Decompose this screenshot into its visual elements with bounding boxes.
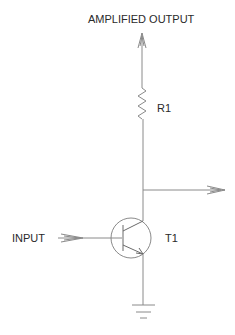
amplified-output-label: AMPLIFIED OUTPUT — [88, 13, 195, 25]
resistor-r1 — [138, 88, 146, 119]
transistor-t1-label: T1 — [165, 232, 178, 244]
input-label: INPUT — [12, 232, 45, 244]
circuit-diagram: AMPLIFIED OUTPUT R1 INPUT T1 — [0, 0, 235, 335]
output-arrow-up-icon — [138, 33, 146, 88]
ground-icon — [132, 305, 155, 318]
input-arrow-icon — [58, 234, 122, 242]
resistor-r1-label: R1 — [157, 102, 171, 114]
output-arrow-right-icon — [143, 186, 225, 194]
